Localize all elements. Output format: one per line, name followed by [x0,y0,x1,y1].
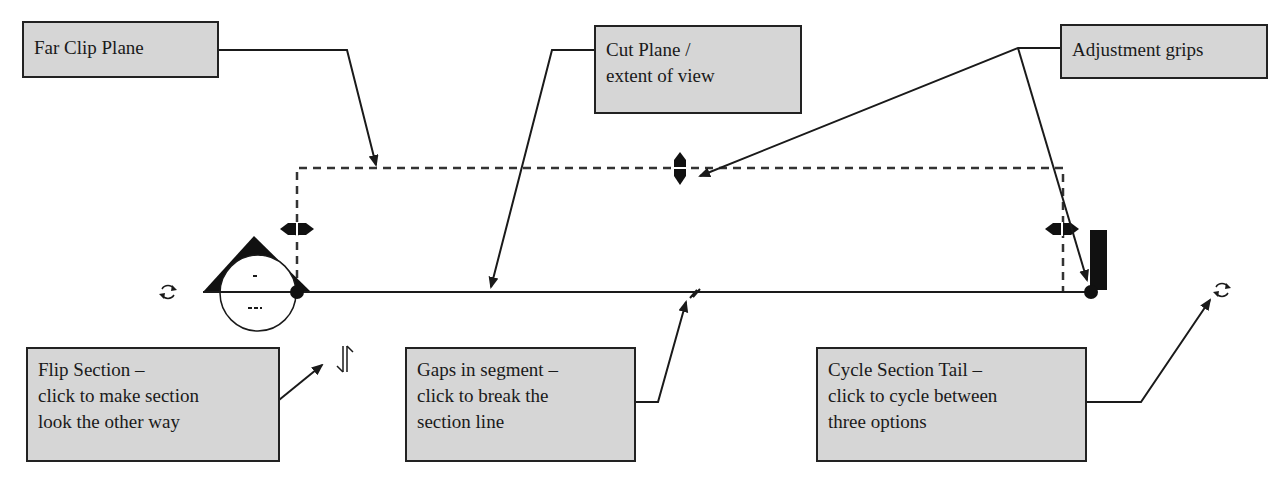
callout-text: Gaps in segment – [417,357,624,383]
leader-gaps [636,302,686,402]
callout-cycle-section-tail: Cycle Section Tail – click to cycle betw… [816,347,1087,462]
callout-flip-section: Flip Section – click to make section loo… [26,347,280,462]
adjust-grip-top[interactable] [673,152,687,185]
callout-gaps-in-segment: Gaps in segment – click to break the sec… [405,347,636,462]
callout-text: Cycle Section Tail – [828,357,1075,383]
callout-text: three options [828,409,1075,435]
callout-cut-plane: Cut Plane / extent of view [594,25,802,114]
callout-far-clip-plane: Far Clip Plane [22,21,219,78]
callout-text: look the other way [38,409,268,435]
segment-gap-icon[interactable] [690,289,700,298]
callout-text: click to make section [38,383,268,409]
leader-cycle [1086,300,1210,402]
section-diagram: Far Clip Plane Cut Plane / extent of vie… [0,0,1286,489]
callout-text: click to break the [417,383,624,409]
flip-arrows-icon[interactable] [337,346,353,372]
leader-flip [279,365,322,400]
callout-adjustment-grips: Adjustment grips [1060,24,1268,79]
section-tail[interactable] [1084,230,1107,299]
callout-text: extent of view [606,63,790,89]
leader-far-clip [218,50,376,165]
callout-text: click to cycle between [828,383,1075,409]
callout-text: section line [417,409,624,435]
section-head-icon [203,236,311,331]
callout-text: Cut Plane / [606,37,790,63]
far-clip-plane-outline [297,168,1063,292]
adjust-grip-left[interactable] [280,222,314,236]
callout-text: Far Clip Plane [34,35,207,61]
callout-text: Flip Section – [38,357,268,383]
cycle-arrows-icon[interactable] [1213,283,1231,297]
cycle-arrows-icon[interactable] [159,285,177,299]
callout-text: Adjustment grips [1072,37,1256,63]
